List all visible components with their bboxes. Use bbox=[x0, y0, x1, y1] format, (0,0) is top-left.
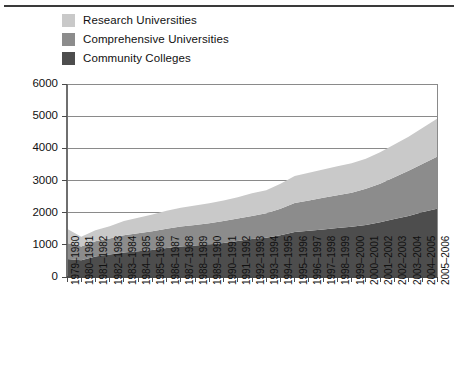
x-axis-tick-label: 1983–1984 bbox=[128, 236, 138, 285]
x-axis-tick-label: 1997–1998 bbox=[327, 236, 337, 285]
x-axis-tick-label: 1990–1991 bbox=[228, 236, 238, 285]
figure: Research Universities Comprehensive Univ… bbox=[0, 0, 459, 381]
x-axis-tick-label: 1991–1992 bbox=[242, 236, 252, 285]
x-axis-tick-label: 1998–1999 bbox=[341, 236, 351, 285]
x-axis-tick-label: 1985–1986 bbox=[156, 236, 166, 285]
x-axis-tick-label: 1988–1989 bbox=[199, 236, 209, 285]
x-axis-tick-label: 2002–2003 bbox=[398, 236, 408, 285]
x-axis-tick-label: 2003–2004 bbox=[413, 236, 423, 285]
x-axis-tick-label: 1986–1987 bbox=[171, 236, 181, 285]
x-axis-tick-label: 1995–1996 bbox=[299, 236, 309, 285]
x-axis-tick-label: 1982–1983 bbox=[114, 236, 124, 285]
x-axis-tick-label: 1992–1993 bbox=[256, 236, 266, 285]
x-axis-tick-label: 1999–2000 bbox=[356, 236, 366, 285]
x-axis-tick-label: 1993–1994 bbox=[270, 236, 280, 285]
x-axis-tick-label: 1994–1995 bbox=[284, 236, 294, 285]
x-axis-tick-label: 2001–2002 bbox=[384, 236, 394, 285]
x-axis-tick-label: 1989–1990 bbox=[213, 236, 223, 285]
x-axis-tick-label: 1996–1997 bbox=[313, 236, 323, 285]
x-axis-tick-label: 2000–2001 bbox=[370, 236, 380, 285]
x-axis-tick-label: 1981–1982 bbox=[99, 236, 109, 285]
x-axis-tick-label: 1980–1981 bbox=[85, 236, 95, 285]
x-axis-tick-label: 1984–1985 bbox=[142, 236, 152, 285]
x-axis-tick-label: 2004–2005 bbox=[427, 236, 437, 285]
x-axis-tick-label: 1979–1980 bbox=[71, 236, 81, 285]
x-axis-tick-label: 1987–1988 bbox=[185, 236, 195, 285]
x-axis-tick-labels: 1979–19801980–19811981–19821982–19831983… bbox=[0, 0, 459, 381]
x-axis-tick-label: 2005–2006 bbox=[441, 236, 451, 285]
